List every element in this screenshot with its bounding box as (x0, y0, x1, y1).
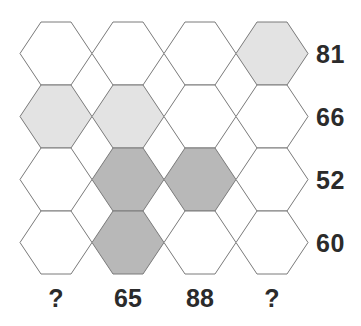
hex-cell[interactable] (20, 211, 92, 274)
column-label-3: 88 (164, 286, 236, 311)
hex-cell[interactable] (164, 148, 236, 211)
hex-cell[interactable] (20, 148, 92, 211)
hex-cell[interactable] (20, 22, 92, 85)
column-label-4: ? (236, 286, 308, 311)
hex-cell[interactable] (236, 85, 308, 148)
hex-cell[interactable] (164, 211, 236, 274)
hexagon-grid (0, 0, 361, 326)
hex-cell[interactable] (92, 211, 164, 274)
hexagon-puzzle: 81 66 52 60 ? 65 88 ? (0, 0, 361, 326)
row-label-2: 66 (316, 105, 345, 130)
hex-cell[interactable] (236, 211, 308, 274)
column-label-2: 65 (92, 286, 164, 311)
hex-cell[interactable] (92, 148, 164, 211)
hex-cell[interactable] (20, 85, 92, 148)
row-label-4: 60 (316, 231, 345, 256)
column-label-1: ? (20, 286, 92, 311)
hex-cell[interactable] (92, 22, 164, 85)
hex-cell[interactable] (236, 148, 308, 211)
hex-cell[interactable] (164, 85, 236, 148)
hex-cell[interactable] (236, 22, 308, 85)
hex-cell[interactable] (164, 22, 236, 85)
row-label-1: 81 (316, 42, 345, 67)
row-label-3: 52 (316, 168, 345, 193)
hex-cell[interactable] (92, 85, 164, 148)
